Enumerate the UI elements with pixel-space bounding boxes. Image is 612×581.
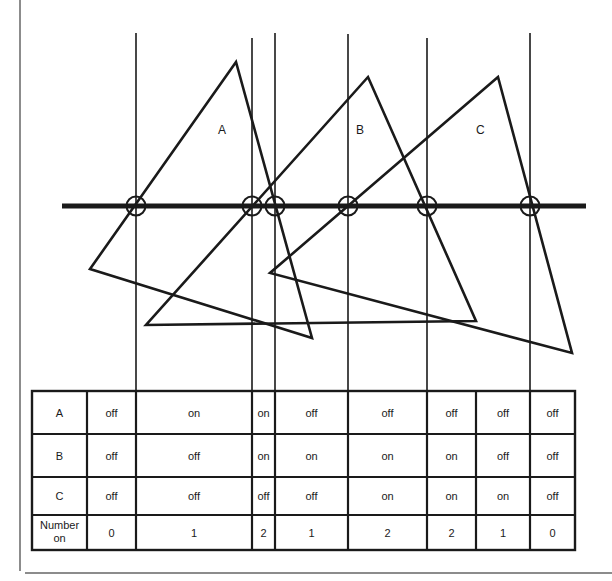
table-cell: off bbox=[105, 450, 118, 462]
table-cell: off bbox=[445, 407, 458, 419]
table-cell: on bbox=[257, 450, 269, 462]
table-cell: off bbox=[546, 490, 559, 502]
table-cell: on bbox=[445, 450, 457, 462]
triangle-label-a: A bbox=[218, 123, 226, 137]
table-cell: off bbox=[188, 490, 201, 502]
table-cell: off bbox=[381, 407, 394, 419]
table-cell: 0 bbox=[108, 527, 114, 539]
table-cell: on bbox=[257, 407, 269, 419]
table-cell: 2 bbox=[384, 527, 390, 539]
table-cell: off bbox=[546, 407, 559, 419]
table-cell: off bbox=[305, 407, 318, 419]
row-header: A bbox=[56, 407, 64, 419]
row-header: C bbox=[56, 490, 64, 502]
triangle-a bbox=[90, 62, 312, 338]
row-header: B bbox=[56, 450, 63, 462]
sample-lines bbox=[136, 33, 530, 391]
table-cell: off bbox=[105, 490, 118, 502]
table-cell: off bbox=[305, 490, 318, 502]
table-cell: off bbox=[257, 490, 270, 502]
table-cell: off bbox=[105, 407, 118, 419]
table-cell: on bbox=[305, 450, 317, 462]
row-header: Number bbox=[40, 519, 79, 531]
table-cell: on bbox=[445, 490, 457, 502]
table-cell: on bbox=[381, 490, 393, 502]
table-cell: off bbox=[497, 450, 510, 462]
table-cell: 2 bbox=[448, 527, 454, 539]
table-cell: 2 bbox=[260, 527, 266, 539]
table-cell: 0 bbox=[549, 527, 555, 539]
triangle-label-b: B bbox=[356, 123, 364, 137]
state-table: AoffononoffoffoffoffoffBoffoffononononof… bbox=[32, 391, 575, 550]
table-cell: 1 bbox=[308, 527, 314, 539]
table-cell: on bbox=[381, 450, 393, 462]
row-header: on bbox=[53, 532, 65, 544]
table-cell: on bbox=[497, 490, 509, 502]
triangle-overlap-diagram: A B C AoffononoffoffoffoffoffBoffoffonon… bbox=[0, 0, 612, 581]
table-cell: 1 bbox=[500, 527, 506, 539]
table-cell: off bbox=[497, 407, 510, 419]
table-cell: 1 bbox=[191, 527, 197, 539]
table-cell: on bbox=[188, 407, 200, 419]
triangle-label-c: C bbox=[476, 123, 485, 137]
table-cell: off bbox=[546, 450, 559, 462]
table-cell: off bbox=[188, 450, 201, 462]
